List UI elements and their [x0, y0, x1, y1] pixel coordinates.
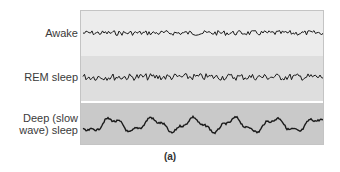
- deep-trace: [83, 116, 323, 133]
- deep-sleep-label: Deep (slow wave) sleep: [19, 112, 78, 136]
- awake-label: Awake: [45, 27, 78, 39]
- figure-caption: (a): [0, 151, 340, 162]
- rem-sleep-label: REM sleep: [24, 71, 78, 83]
- deep-sleep-label-line2: wave) sleep: [19, 124, 78, 136]
- eeg-traces: [81, 11, 324, 145]
- eeg-panel: [80, 10, 324, 145]
- deep-sleep-label-line1: Deep (slow: [23, 112, 78, 124]
- rem-trace: [83, 74, 323, 81]
- awake-trace: [83, 31, 323, 36]
